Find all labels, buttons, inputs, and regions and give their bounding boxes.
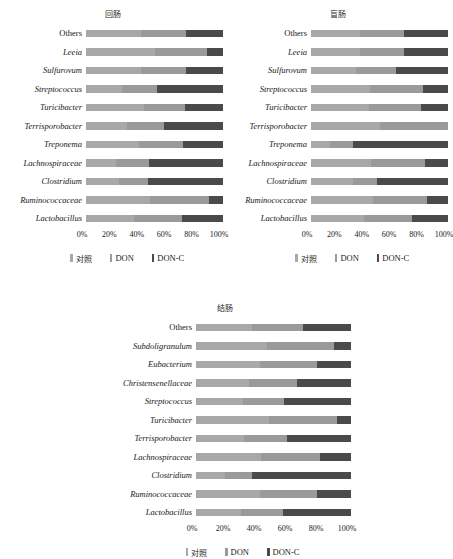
axis-tick-label: 80%: [309, 524, 324, 533]
bar-segment-对照: [311, 141, 330, 149]
bar-segment-don-c: [412, 215, 448, 223]
legend-swatch-icon: [152, 254, 155, 262]
category-label: Lachnospiraceae: [92, 452, 196, 462]
x-axis-ileum: 0%20%40%60%80%100%: [0, 230, 226, 241]
bar-segment-对照: [311, 196, 373, 204]
bar-segment-don: [122, 85, 158, 93]
bar-segment-对照: [86, 67, 141, 75]
bar-segment-don-c: [186, 30, 223, 38]
bar-row: Leeia: [0, 43, 226, 62]
chart-ileum: 回肠 OthersLeeiaSulfurovumStreptococcusTur…: [0, 8, 226, 264]
bar-segment-对照: [311, 178, 353, 186]
bar-row: Turicibacter: [92, 411, 358, 430]
category-label: Ruminococcaceae: [225, 195, 311, 205]
bar-row: Others: [225, 24, 451, 43]
bar-row: Ruminococcaceae: [225, 191, 451, 210]
axis-tick-label: 60%: [278, 524, 293, 533]
legend-swatch-icon: [110, 254, 113, 262]
category-label: Clostridium: [92, 470, 196, 480]
bar-segment-don-c: [320, 453, 351, 461]
bar-row: Lactobacillus: [0, 209, 226, 228]
legend-swatch-icon: [295, 254, 298, 262]
bar-segment-don: [155, 48, 207, 56]
bar-row: Treponema: [225, 135, 451, 154]
bar-row: Eubacterium: [92, 355, 358, 374]
axis-tick-label: 0%: [77, 230, 88, 239]
axis-tick-label: 80%: [184, 230, 199, 239]
category-label: Sulfurovum: [225, 65, 311, 75]
stacked-bar: [311, 159, 448, 167]
axis-tick-zone: 0%20%40%60%80%100%: [82, 230, 219, 241]
bar-segment-don-c: [404, 48, 448, 56]
category-label: Lactobacillus: [0, 213, 86, 223]
stacked-bar: [311, 178, 448, 186]
bar-segment-don: [127, 122, 164, 130]
legend-label: 对照: [76, 253, 92, 264]
bar-segment-对照: [311, 122, 380, 130]
bar-row: Streptococcus: [225, 80, 451, 99]
bar-row: Lactobacillus: [225, 209, 451, 228]
legend-label: DON: [340, 253, 358, 263]
bar-segment-对照: [311, 67, 356, 75]
stacked-bar: [311, 67, 448, 75]
bar-row: Lactobacillus: [92, 503, 358, 522]
bar-segment-don: [141, 67, 186, 75]
bar-segment-don-c: [183, 141, 223, 149]
bar-segment-对照: [196, 435, 244, 443]
legend-ileum: 对照DONDON-C: [0, 253, 226, 264]
category-label: Clostridium: [0, 176, 86, 186]
category-label: Sulfurovum: [0, 65, 86, 75]
bar-row: Ruminococcaceae: [0, 191, 226, 210]
axis-tick-zone: 0%20%40%60%80%100%: [307, 230, 444, 241]
bar-segment-don: [353, 178, 376, 186]
chart-title-ileum: 回肠: [0, 8, 226, 19]
stacked-bar: [196, 324, 351, 332]
bar-segment-don: [380, 122, 449, 130]
stacked-bar: [86, 122, 223, 130]
legend-item: DON: [225, 547, 249, 557]
bar-segment-don: [243, 398, 285, 406]
bar-segment-对照: [86, 141, 139, 149]
bar-rows-ileum: OthersLeeiaSulfurovumStreptococcusTurici…: [0, 24, 226, 228]
bar-segment-don-c: [396, 67, 448, 75]
legend-colon: 对照DONDON-C: [92, 547, 358, 558]
bar-segment-don-c: [182, 215, 223, 223]
bar-segment-对照: [196, 453, 261, 461]
bar-segment-don-c: [149, 159, 223, 167]
bar-segment-对照: [196, 509, 241, 517]
bar-segment-don-c: [157, 85, 223, 93]
chart-colon: 结肠 OthersSubdoligranulumEubacteriumChris…: [92, 302, 358, 558]
axis-tick-label: 20%: [216, 524, 231, 533]
bar-segment-don-c: [303, 324, 351, 332]
axis-spacer: [92, 524, 192, 535]
axis-spacer: [0, 230, 82, 241]
bar-segment-don: [119, 178, 148, 186]
bar-segment-对照: [196, 361, 260, 369]
bar-segment-对照: [86, 196, 150, 204]
category-label: Terrisporobacter: [0, 121, 86, 131]
axis-tick-label: 100%: [338, 524, 357, 533]
bar-row: Sulfurovum: [225, 61, 451, 80]
bar-rows-colon: OthersSubdoligranulumEubacteriumChristen…: [92, 318, 358, 522]
axis-tick-label: 100%: [435, 230, 453, 239]
stacked-bar: [86, 85, 223, 93]
bar-segment-don-c: [353, 141, 448, 149]
legend-label: DON: [231, 547, 249, 557]
bar-segment-don: [360, 30, 404, 38]
chart-title-cecum: 盲肠: [225, 8, 451, 19]
bar-segment-对照: [86, 159, 116, 167]
bar-segment-don: [330, 141, 353, 149]
category-label: Others: [225, 28, 311, 38]
bar-segment-don: [356, 67, 396, 75]
bar-segment-对照: [196, 416, 269, 424]
category-label: Clostridium: [225, 176, 311, 186]
axis-tick-label: 0%: [187, 524, 198, 533]
category-label: Turicibacter: [225, 102, 311, 112]
bar-row: Others: [92, 318, 358, 337]
stacked-bar: [311, 85, 448, 93]
axis-tick-label: 20%: [102, 230, 117, 239]
bar-segment-don: [225, 472, 251, 480]
category-label: Treponema: [225, 139, 311, 149]
bar-row: Lachnospiraceae: [225, 154, 451, 173]
axis-tick-label: 60%: [157, 230, 172, 239]
